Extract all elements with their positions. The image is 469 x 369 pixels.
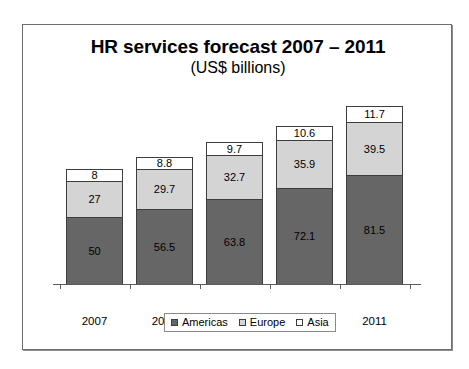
square-swatch-dark-icon bbox=[171, 319, 178, 326]
bar-value-label: 39.5 bbox=[364, 144, 385, 155]
legend-label-asia: Asia bbox=[307, 316, 328, 328]
bar-segment-americas-2007[interactable]: 50 bbox=[66, 217, 123, 284]
x-axis-label-2011: 2011 bbox=[346, 314, 403, 328]
x-axis-tick bbox=[200, 285, 201, 289]
bar-value-label: 9.7 bbox=[227, 144, 242, 155]
bar-value-label: 10.6 bbox=[294, 128, 315, 139]
bar-segment-americas-2011[interactable]: 81.5 bbox=[346, 175, 403, 284]
bar-series-container: 827508.829.756.59.732.763.810.635.972.11… bbox=[53, 85, 421, 284]
bar-value-label: 32.7 bbox=[224, 172, 245, 183]
bar-group-2008[interactable]: 8.829.756.5 bbox=[136, 157, 193, 284]
bar-segment-asia-2008[interactable]: 8.8 bbox=[136, 157, 193, 169]
square-swatch-light-icon bbox=[239, 319, 246, 326]
bar-group-2009[interactable]: 9.732.763.8 bbox=[206, 142, 263, 284]
bar-segment-americas-2009[interactable]: 63.8 bbox=[206, 199, 263, 284]
x-axis-line bbox=[53, 284, 421, 285]
bar-segment-asia-2010[interactable]: 10.6 bbox=[276, 126, 333, 140]
bar-group-2011[interactable]: 11.739.581.5 bbox=[346, 106, 403, 284]
bar-value-label: 35.9 bbox=[294, 159, 315, 170]
x-axis-label-2007: 2007 bbox=[66, 314, 123, 328]
chart-title-block: HR services forecast 2007 – 2011 (US$ bi… bbox=[23, 35, 453, 78]
bar-segment-asia-2011[interactable]: 11.7 bbox=[346, 106, 403, 122]
bar-segment-americas-2010[interactable]: 72.1 bbox=[276, 188, 333, 284]
bar-segment-europe-2011[interactable]: 39.5 bbox=[346, 122, 403, 175]
bar-value-label: 50 bbox=[88, 246, 100, 257]
bar-value-label: 11.7 bbox=[364, 109, 385, 120]
page-title: HR services forecast 2007 – 2011 bbox=[23, 35, 453, 58]
x-axis-tick bbox=[60, 285, 61, 289]
legend-label-americas: Americas bbox=[182, 316, 228, 328]
x-axis-tick bbox=[130, 285, 131, 289]
legend-item-asia[interactable]: Asia bbox=[296, 316, 328, 328]
legend-item-europe[interactable]: Europe bbox=[239, 316, 285, 328]
bar-segment-asia-2007[interactable]: 8 bbox=[66, 169, 123, 181]
chart-subtitle: (US$ billions) bbox=[23, 58, 453, 78]
bar-value-label: 8 bbox=[91, 170, 97, 181]
bar-value-label: 63.8 bbox=[224, 237, 245, 248]
bar-group-2007[interactable]: 82750 bbox=[66, 169, 123, 284]
slide-canvas: HR services forecast 2007 – 2011 (US$ bi… bbox=[0, 0, 469, 369]
x-axis-tick bbox=[410, 285, 411, 289]
chart-legend: Americas Europe Asia bbox=[164, 313, 336, 332]
bar-value-label: 72.1 bbox=[294, 231, 315, 242]
bar-segment-europe-2007[interactable]: 27 bbox=[66, 181, 123, 217]
bar-segment-americas-2008[interactable]: 56.5 bbox=[136, 209, 193, 284]
bar-group-2010[interactable]: 10.635.972.1 bbox=[276, 126, 333, 284]
x-axis-tick bbox=[270, 285, 271, 289]
legend-item-americas[interactable]: Americas bbox=[171, 316, 228, 328]
legend-label-europe: Europe bbox=[250, 316, 285, 328]
bar-value-label: 56.5 bbox=[154, 242, 175, 253]
bar-value-label: 29.7 bbox=[154, 184, 175, 195]
bar-value-label: 8.8 bbox=[157, 158, 172, 169]
bar-segment-europe-2008[interactable]: 29.7 bbox=[136, 169, 193, 209]
bar-value-label: 81.5 bbox=[364, 225, 385, 236]
plot-area: 827508.829.756.59.732.763.810.635.972.11… bbox=[53, 85, 421, 285]
chart-frame: HR services forecast 2007 – 2011 (US$ bi… bbox=[22, 24, 452, 350]
bar-segment-europe-2009[interactable]: 32.7 bbox=[206, 155, 263, 199]
bar-segment-europe-2010[interactable]: 35.9 bbox=[276, 140, 333, 188]
x-axis-tick bbox=[340, 285, 341, 289]
square-swatch-white-icon bbox=[296, 319, 303, 326]
bar-segment-asia-2009[interactable]: 9.7 bbox=[206, 142, 263, 155]
bar-value-label: 27 bbox=[88, 194, 100, 205]
